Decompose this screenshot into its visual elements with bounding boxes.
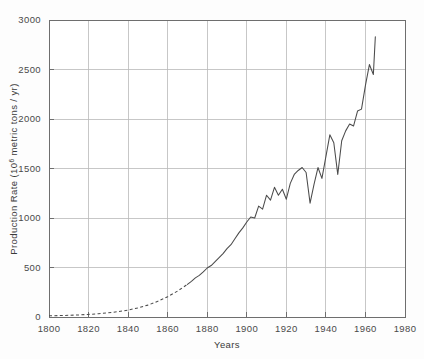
- y-tick-label: 2000: [18, 113, 41, 124]
- y-axis-title-prefix: Production Rate (10: [8, 163, 19, 255]
- y-tick-label: 3000: [18, 14, 41, 25]
- x-tick-label: 1940: [315, 323, 338, 334]
- x-tick-label: 1820: [77, 323, 100, 334]
- x-tick-label: 1980: [394, 323, 417, 334]
- x-tick-label: 1920: [275, 323, 298, 334]
- x-axis-tick-labels: 1800182018401860188019001920194019601980: [38, 323, 417, 334]
- x-tick-label: 1860: [156, 323, 179, 334]
- x-tick-label: 1960: [354, 323, 377, 334]
- svg-text:Production Rate (106 metric to: Production Rate (106 metric tons / yr): [8, 83, 20, 254]
- y-tick-label: 2500: [18, 64, 41, 75]
- x-tick-label: 1900: [235, 323, 258, 334]
- y-axis-title: Production Rate (106 metric tons / yr): [8, 83, 20, 254]
- y-tick-label: 0: [35, 311, 41, 322]
- y-tick-label: 500: [24, 262, 41, 273]
- y-axis-title-suffix: metric tons / yr): [8, 83, 19, 158]
- y-tick-label: 1500: [18, 163, 41, 174]
- chart-container: 050010001500200025003000 180018201840186…: [0, 0, 424, 359]
- y-tick-label: 1000: [18, 212, 41, 223]
- y-axis-tick-labels: 050010001500200025003000: [18, 14, 41, 322]
- x-tick-label: 1800: [38, 323, 61, 334]
- production-rate-line-chart: 050010001500200025003000 180018201840186…: [0, 0, 424, 359]
- x-tick-label: 1840: [117, 323, 140, 334]
- x-axis-title: Years: [214, 339, 240, 350]
- x-tick-label: 1880: [196, 323, 219, 334]
